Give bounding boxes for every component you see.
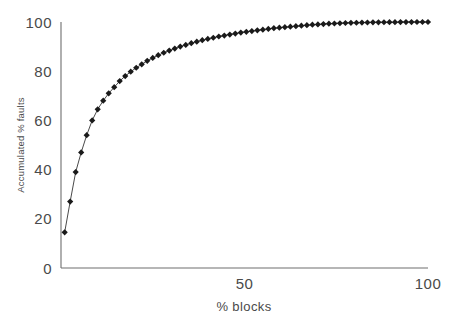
- x-tick-label: 100: [415, 275, 442, 292]
- x-axis-title: % blocks: [216, 299, 271, 314]
- y-tick-label: 0: [43, 260, 52, 277]
- y-tick-label: 80: [34, 63, 52, 80]
- y-tick-label: 20: [34, 210, 52, 227]
- chart-container: 020406080100 Accumulated % faults 50100 …: [0, 0, 455, 324]
- x-tick-label: 50: [236, 275, 254, 292]
- chart-background: [0, 0, 455, 324]
- cumulative-faults-chart: 020406080100 Accumulated % faults 50100 …: [0, 0, 455, 324]
- y-tick-label: 40: [34, 161, 52, 178]
- y-tick-label: 60: [34, 112, 52, 129]
- y-tick-label: 100: [25, 14, 52, 31]
- y-axis-title: Accumulated % faults: [15, 97, 26, 192]
